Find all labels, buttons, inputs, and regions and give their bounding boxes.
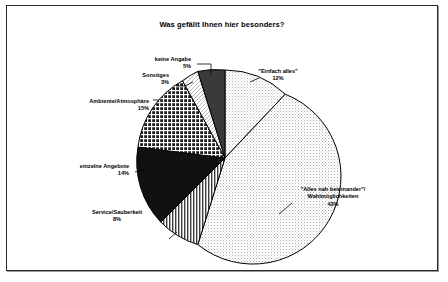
chart-frame: Was gefällt Ihnen hier besonders? (6, 5, 438, 271)
label-keine-angabe-name: keine Angabe (155, 56, 191, 62)
label-keine-angabe: keine Angabe 5% (63, 56, 191, 71)
label-sonstiges-pct: 3% (51, 79, 169, 86)
label-service-pct: 8% (69, 216, 165, 223)
label-einzelne-pct: 14% (13, 170, 129, 177)
pie-chart-graphic (7, 6, 439, 272)
label-einfach-alles-pct: 12% (235, 75, 321, 82)
label-einfach-alles: "Einfach alles" 12% (235, 68, 321, 83)
label-sonstiges: Sonstiges 3% (51, 72, 169, 87)
label-sonstiges-name: Sonstiges (142, 72, 169, 78)
label-keine-angabe-pct: 5% (63, 63, 191, 70)
label-service-name: Service/Sauberkeit (92, 209, 142, 215)
label-service-sauberkeit: Service/Sauberkeit 8% (69, 209, 165, 224)
label-alles-nah-pct: 43% (282, 201, 384, 208)
label-alles-nah-name2: Wahlmöglichkeiten (282, 193, 384, 200)
label-einzelne-name: einzelne Angebote (80, 163, 129, 169)
label-einzelne-angebote: einzelne Angebote 14% (13, 163, 129, 178)
label-ambiente-pct: 15% (17, 105, 149, 112)
label-alles-nah-beieinander: "Alles nah beieinander"/ Wahlmöglichkeit… (282, 186, 384, 208)
label-ambiente-name: Ambiente/Atmosphäre (89, 98, 149, 104)
label-einfach-alles-name: "Einfach alles" (258, 68, 298, 74)
label-alles-nah-name: "Alles nah beieinander"/ (301, 186, 366, 192)
label-ambiente-atmosphaere: Ambiente/Atmosphäre 15% (17, 98, 149, 113)
